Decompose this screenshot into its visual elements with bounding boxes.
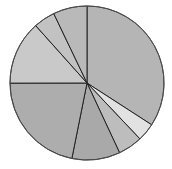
pie-chart (0, 0, 172, 169)
